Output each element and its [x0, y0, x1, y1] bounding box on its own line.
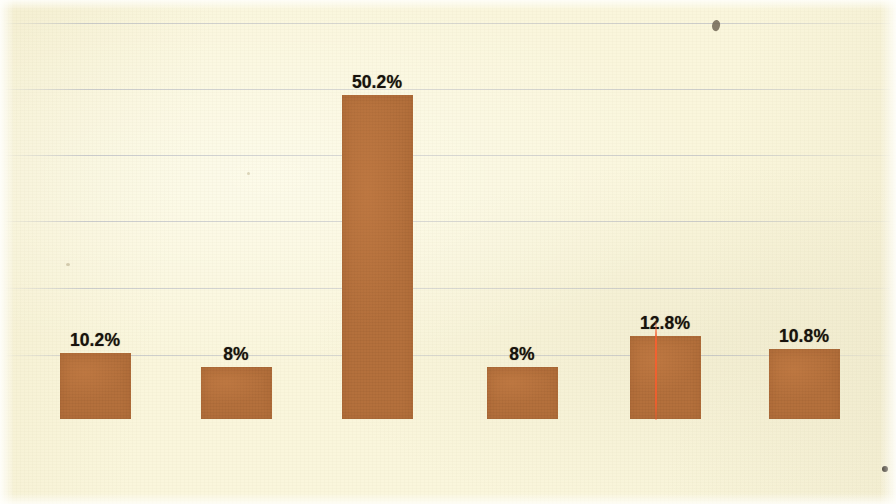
gridline-1 [6, 89, 890, 90]
bar-value-label: 10.8% [779, 326, 829, 347]
bar-value-label: 10.2% [70, 330, 120, 351]
bar-label-slot: Lack ofassistance tovictims [769, 419, 840, 504]
bar-group: 10.2%Lack of earlywarning [60, 0, 131, 504]
bar [342, 95, 413, 419]
gridline-5 [6, 355, 890, 356]
gridline-3 [6, 221, 890, 222]
bar-value-label: 8% [223, 344, 249, 365]
bar [630, 336, 701, 419]
bar-value-label: 50.2% [352, 72, 402, 93]
gridline-2 [6, 155, 890, 156]
bar [769, 349, 840, 419]
bar-chart-scan: 10.2%Lack of earlywarning8%Lack ofassist… [0, 0, 896, 504]
bar-group: 8%Lack ofassistance toIDPs [201, 0, 272, 504]
plot-area: 10.2%Lack of earlywarning8%Lack ofassist… [0, 0, 896, 504]
bar-group: 12.8%Ineffectivedisastermanagement [630, 0, 701, 504]
bar [487, 367, 558, 419]
gridline-0 [6, 23, 890, 24]
bar-group: 8%Food insecurity [487, 0, 558, 504]
bar-label-slot: Food insecurity [487, 419, 558, 504]
bar [60, 353, 131, 419]
gridline-4 [6, 288, 890, 289]
bar-label-slot: Lack of earlywarning [60, 419, 131, 504]
bar-value-label: 8% [509, 344, 535, 365]
bar-label-slot: Man madedisasters [342, 419, 413, 504]
bar-group: 10.8%Lack ofassistance tovictims [769, 0, 840, 504]
bar-group: 50.2%Man madedisasters [342, 0, 413, 504]
bar [201, 367, 272, 419]
bar-label-slot: Lack ofassistance toIDPs [201, 419, 272, 504]
bar-label-slot: Ineffectivedisastermanagement [630, 419, 701, 504]
bar-value-label: 12.8% [640, 313, 690, 334]
